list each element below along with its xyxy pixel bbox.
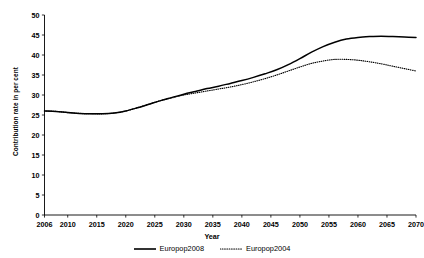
plot-area: 05101520253035404550 2006201020152020202… (0, 0, 424, 258)
y-tick-label: 20 (32, 131, 40, 140)
x-tick-label: 2025 (147, 220, 163, 229)
x-tick-label: 2065 (379, 220, 395, 229)
chart-figure: Contribution rate in per cent 0510152025… (0, 0, 424, 258)
x-tick-label: 2070 (408, 220, 424, 229)
x-tick-label: 2010 (60, 220, 76, 229)
x-axis-ticklabels: 2006201020152020202520302035204020452050… (37, 220, 424, 229)
y-tick-label: 25 (32, 111, 40, 120)
x-tick-label: 2050 (292, 220, 308, 229)
x-tick-label: 2035 (205, 220, 221, 229)
legend-label: Europop2008 (160, 244, 204, 253)
series-line-europop2004 (45, 59, 417, 114)
legend-swatch-dotted-icon (220, 245, 242, 253)
x-tick-label: 2060 (350, 220, 366, 229)
x-tick-label: 2020 (118, 220, 134, 229)
x-tick-label: 2006 (37, 220, 53, 229)
legend-swatch-solid-icon (134, 245, 156, 253)
x-tick-label: 2015 (89, 220, 105, 229)
y-axis-ticklabels: 05101520253035404550 (32, 11, 40, 220)
legend-entry-europop2008[interactable]: Europop2008 (134, 244, 204, 253)
chart-legend: Europop2008Europop2004 (0, 244, 424, 253)
y-tick-label: 0 (36, 211, 40, 220)
y-axis (42, 15, 45, 215)
y-tick-label: 15 (32, 151, 40, 160)
y-tick-label: 30 (32, 91, 40, 100)
x-tick-label: 2030 (176, 220, 192, 229)
x-tick-label: 2055 (321, 220, 337, 229)
series-line-europop2008 (45, 36, 417, 114)
x-axis-title: Year (0, 232, 424, 241)
series-lines (45, 36, 417, 114)
legend-label: Europop2004 (246, 244, 290, 253)
y-tick-label: 45 (32, 31, 40, 40)
x-tick-label: 2040 (234, 220, 250, 229)
y-tick-label: 40 (32, 51, 40, 60)
y-tick-label: 10 (32, 171, 40, 180)
legend-entry-europop2004[interactable]: Europop2004 (220, 244, 290, 253)
line-chart-svg: 05101520253035404550 2006201020152020202… (0, 0, 424, 258)
y-tick-label: 35 (32, 71, 40, 80)
x-axis (45, 215, 417, 218)
y-tick-label: 50 (32, 11, 40, 20)
x-tick-label: 2045 (263, 220, 279, 229)
y-tick-label: 5 (36, 191, 40, 200)
